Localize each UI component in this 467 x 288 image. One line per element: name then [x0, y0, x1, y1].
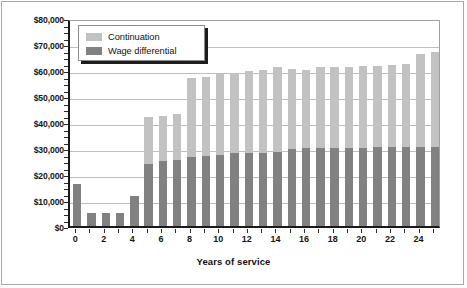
bar-group: [359, 66, 367, 226]
bar-group: [116, 213, 124, 226]
bar-segment-continuation: [144, 117, 152, 164]
x-axis-tick-mark: [175, 229, 176, 233]
bar-segment-wage-differential: [87, 213, 95, 226]
bar-group: [216, 74, 224, 226]
x-axis-tick-mark: [218, 229, 219, 233]
bar-group: [259, 70, 267, 226]
bar-segment-wage-differential: [345, 148, 353, 226]
bar-group: [245, 71, 253, 226]
y-axis-tick-mark: [64, 228, 68, 229]
bar-group: [345, 67, 353, 226]
y-axis-labels: $80,000$70,000$60,000$50,000$40,000$30,0…: [0, 0, 64, 288]
bar-segment-continuation: [288, 69, 296, 150]
bar-segment-continuation: [302, 70, 310, 148]
x-axis-tick-label: 0: [65, 234, 85, 245]
bar-group: [431, 52, 439, 226]
x-axis-tick-mark: [404, 229, 405, 233]
legend-label-continuation: Continuation: [108, 32, 160, 42]
bar-segment-wage-differential: [416, 147, 424, 226]
bar-segment-wage-differential: [288, 149, 296, 226]
legend-label-wage-differential: Wage differential: [108, 46, 176, 56]
bar-segment-wage-differential: [102, 213, 110, 226]
bar-segment-wage-differential: [431, 147, 439, 226]
bar-segment-continuation: [359, 66, 367, 148]
bar-group: [130, 196, 138, 226]
x-axis-tick-mark: [132, 229, 133, 233]
bar-group: [402, 64, 410, 227]
x-axis-tick-label: 14: [265, 234, 285, 245]
bar-segment-wage-differential: [144, 164, 152, 226]
x-axis-tick-mark: [147, 229, 148, 233]
x-axis-tick-label: 10: [208, 234, 228, 245]
legend-item-continuation: Continuation: [86, 30, 198, 43]
x-axis-tick-mark: [433, 229, 434, 233]
bar-segment-wage-differential: [245, 153, 253, 226]
bar-segment-continuation: [173, 114, 181, 160]
x-axis-tick-label: 22: [380, 234, 400, 245]
x-axis-tick-mark: [233, 229, 234, 233]
x-axis-tick-mark: [190, 229, 191, 233]
x-axis-tick-mark: [89, 229, 90, 233]
bar-segment-wage-differential: [373, 147, 381, 226]
legend-item-wage-differential: Wage differential: [86, 44, 198, 57]
bar-group: [102, 213, 110, 226]
bar-segment-continuation: [230, 73, 238, 154]
x-axis-tick-label: 24: [409, 234, 429, 245]
bar-segment-wage-differential: [159, 161, 167, 226]
x-axis-tick-label: 20: [351, 234, 371, 245]
bar-segment-wage-differential: [273, 152, 281, 226]
y-axis-tick-label: $50,000: [34, 93, 64, 103]
x-axis-tick-mark: [347, 229, 348, 233]
x-axis-tick-mark: [304, 229, 305, 233]
bar-segment-continuation: [187, 78, 195, 157]
x-axis-tick-label: 2: [94, 234, 114, 245]
chart-legend: Continuation Wage differential: [78, 25, 205, 61]
bar-segment-wage-differential: [316, 148, 324, 226]
bar-group: [273, 67, 281, 226]
x-axis-tick-label: 8: [180, 234, 200, 245]
bar-segment-wage-differential: [73, 184, 81, 226]
x-axis-tick-mark: [75, 229, 76, 233]
y-axis-tick-label: $30,000: [34, 145, 64, 155]
bar-segment-continuation: [373, 66, 381, 147]
y-axis-tick-label: $60,000: [34, 67, 64, 77]
dark-gray-swatch-icon: [86, 47, 102, 55]
x-axis-tick-mark: [361, 229, 362, 233]
bar-segment-continuation: [259, 70, 267, 153]
x-axis-tick-mark: [161, 229, 162, 233]
x-axis-tick-mark: [390, 229, 391, 233]
bar-group: [302, 70, 310, 226]
x-axis-tick-mark: [275, 229, 276, 233]
x-axis-tick-label: 16: [294, 234, 314, 245]
bar-segment-continuation: [345, 67, 353, 148]
bar-group: [144, 117, 152, 226]
y-axis-tick-label: $40,000: [34, 119, 64, 129]
bar-group: [173, 114, 181, 226]
x-axis-tick-mark: [318, 229, 319, 233]
bar-segment-wage-differential: [388, 147, 396, 226]
bar-segment-continuation: [159, 116, 167, 162]
bar-group: [73, 184, 81, 226]
bar-segment-wage-differential: [173, 160, 181, 226]
x-axis-tick-mark: [104, 229, 105, 233]
bar-group: [87, 213, 95, 226]
bar-group: [187, 78, 195, 226]
chart-figure: $80,000$70,000$60,000$50,000$40,000$30,0…: [0, 0, 467, 288]
bar-segment-wage-differential: [130, 196, 138, 226]
x-axis-tick-mark: [419, 229, 420, 233]
x-axis-tick-mark: [118, 229, 119, 233]
bar-group: [202, 77, 210, 227]
x-axis-tick-mark: [333, 229, 334, 233]
bar-segment-continuation: [402, 64, 410, 147]
y-axis-tick-label: $80,000: [34, 15, 64, 25]
bar-segment-continuation: [388, 65, 396, 147]
bar-segment-continuation: [245, 71, 253, 153]
bar-segment-continuation: [416, 54, 424, 146]
bar-group: [416, 54, 424, 226]
y-axis-tick-label: $70,000: [34, 41, 64, 51]
bar-segment-continuation: [431, 52, 439, 147]
bar-segment-wage-differential: [302, 148, 310, 226]
bar-segment-continuation: [316, 67, 324, 148]
bar-segment-wage-differential: [216, 155, 224, 227]
x-axis-tick-label: 18: [323, 234, 343, 245]
